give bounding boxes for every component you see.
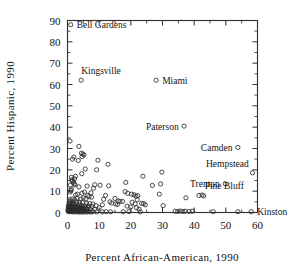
y-tick-label: 50 xyxy=(50,100,62,112)
scatter-chart-canvas: 0102030405060 0102030405060708090 Bell G… xyxy=(0,0,307,274)
x-tick-label: 20 xyxy=(125,219,137,231)
y-axis-title: Percent Hispanic, 1990 xyxy=(4,61,16,171)
point-label-kinston: Kinston xyxy=(257,207,287,217)
x-tick-label: 50 xyxy=(220,219,232,231)
scatter-plot-figure: 0102030405060 0102030405060708090 Bell G… xyxy=(0,0,307,274)
y-tick-label: 20 xyxy=(50,164,62,176)
point-label-paterson: Paterson xyxy=(146,122,179,132)
point-label-camden: Camden xyxy=(201,143,233,153)
y-tick-label: 80 xyxy=(50,36,62,48)
y-tick-label: 90 xyxy=(50,15,62,27)
y-tick-label: 30 xyxy=(50,143,62,155)
point-label-miami: Miami xyxy=(162,76,188,86)
x-axis-title: Percent African-American, 1990 xyxy=(85,251,239,263)
x-tick-label: 40 xyxy=(189,219,201,231)
chart-background xyxy=(0,0,307,274)
point-label-kingsville: Kingsville xyxy=(81,66,121,76)
x-tick-label: 60 xyxy=(252,219,264,231)
point-label-bell-gardens: Bell Gardens xyxy=(77,20,127,30)
point-label-pine-bluff: Pine Bluff xyxy=(205,181,245,191)
x-tick-label: 10 xyxy=(94,219,106,231)
y-tick-label: 0 xyxy=(55,207,61,219)
y-tick-label: 40 xyxy=(50,121,62,133)
y-tick-label: 70 xyxy=(50,57,62,69)
y-tick-label: 60 xyxy=(50,79,62,91)
y-tick-label: 10 xyxy=(50,185,62,197)
x-tick-label: 30 xyxy=(157,219,169,231)
point-label-hempstead: Hempstead xyxy=(206,159,249,169)
x-tick-label: 0 xyxy=(65,219,71,231)
